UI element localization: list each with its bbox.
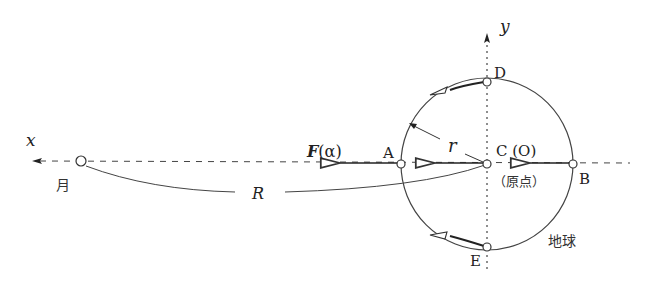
point-B [569,160,577,168]
point-A-label: A [382,144,394,162]
tidal-force-diagram: x y 月 地球 R r A B C (O) D E （原点） F(α) [0,0,646,283]
distance-R-curve-right [285,165,485,192]
point-D [483,78,491,86]
force-arrow-D [450,82,484,90]
force-arrow-E-head [430,232,447,239]
point-E-label: E [470,252,481,270]
point-B-label: B [579,170,590,188]
y-axis-label: y [499,16,510,36]
earth-label: 地球 [548,233,576,249]
distance-R-curve-left [86,166,235,192]
point-A [397,160,405,168]
radius-pointer-line [414,126,440,139]
moon-point [76,156,86,166]
point-C-label: C (O) [496,142,536,160]
radius-leader-line [465,154,483,162]
origin-note: （原点） [493,174,545,189]
radius-label-r: r [448,135,458,156]
force-arrow-D-head [430,87,447,95]
point-D-label: D [494,64,506,82]
force-label: F(α) [306,142,342,161]
point-E [483,243,491,251]
moon-label: 月 [56,177,70,193]
force-argument: (α) [318,142,341,161]
point-C [483,160,491,168]
y-axis-arrowhead [484,33,490,43]
distance-label-R: R [251,184,264,203]
x-axis-label: x [26,130,36,150]
